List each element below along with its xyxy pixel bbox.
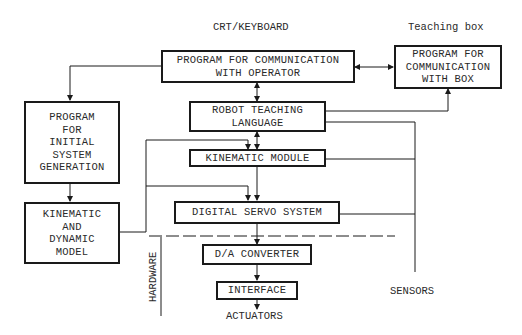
box-line: DIGITAL SERVO SYSTEM (192, 206, 322, 219)
box-line: AND (62, 221, 82, 234)
box-line: PROGRAM FOR (412, 48, 484, 61)
teaching-box-label: Teaching box (408, 21, 484, 33)
kinematic-dynamic-model-box: KINEMATIC AND DYNAMIC MODEL (24, 202, 120, 264)
box-line: WITH BOX (422, 73, 474, 86)
box-line: KINEMATIC MODULE (205, 152, 309, 165)
interface-box: INTERFACE (216, 281, 298, 300)
digital-servo-box: DIGITAL SERVO SYSTEM (174, 201, 340, 224)
box-line: INITIAL (49, 136, 95, 149)
box-line: PROGRAM (49, 111, 95, 124)
box-line: PROGRAM FOR COMMUNICATION (177, 54, 340, 67)
sensors-label: SENSORS (390, 285, 434, 297)
box-line: INTERFACE (228, 284, 287, 297)
hardware-label: HARDWARE (147, 252, 159, 302)
da-converter-box: D/A CONVERTER (202, 244, 312, 265)
box-line: SYSTEM (52, 149, 91, 162)
box-line: ROBOT TEACHING (212, 104, 303, 117)
box-line: COMMUNICATION (406, 61, 491, 74)
crt-keyboard-label: CRT/KEYBOARD (213, 21, 289, 33)
box-line: FOR (62, 124, 82, 137)
comm-box-box: PROGRAM FOR COMMUNICATION WITH BOX (394, 45, 502, 89)
initial-generation-box: PROGRAM FOR INITIAL SYSTEM GENERATION (24, 101, 120, 184)
box-line: D/A CONVERTER (215, 248, 300, 261)
box-line: KINEMATIC (43, 208, 102, 221)
box-line: WITH OPERATOR (216, 67, 301, 80)
box-line: GENERATION (39, 161, 104, 174)
box-line: LANGUAGE (231, 117, 283, 130)
actuators-label: ACTUATORS (226, 310, 283, 322)
teaching-language-box: ROBOT TEACHING LANGUAGE (189, 101, 326, 132)
kinematic-module-box: KINEMATIC MODULE (189, 149, 326, 167)
box-line: DYNAMIC (49, 233, 95, 246)
comm-operator-box: PROGRAM FOR COMMUNICATION WITH OPERATOR (161, 50, 355, 83)
box-line: MODEL (56, 246, 89, 259)
